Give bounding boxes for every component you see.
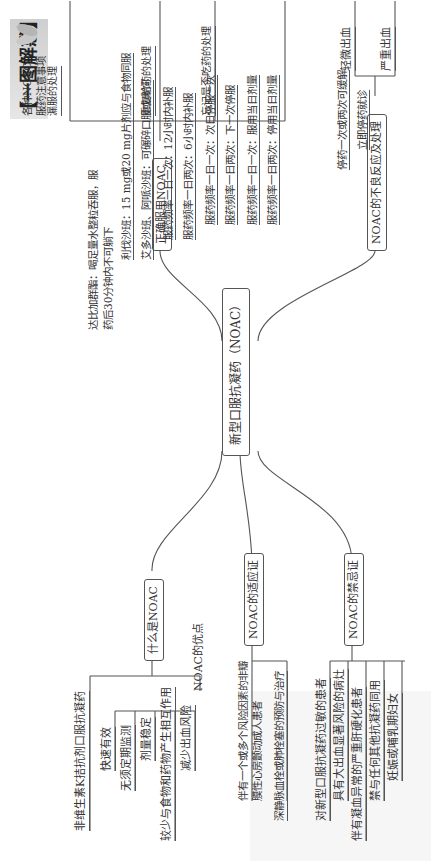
contraindication-item: 具有大出血显著风险的病灶: [333, 669, 349, 801]
adverse-action-severe: 立即停药就诊: [354, 90, 370, 150]
adverse-action-mild: 停药一次或两次可缓解: [334, 70, 350, 170]
contraindication-item: 伴有凝血异常的严重肝硬化患者: [351, 687, 367, 841]
definition-text: 非维生素K拮抗剂口服抗凝药: [74, 691, 90, 831]
advantage-item: 减少出血风险: [180, 705, 196, 771]
missed-once-daily: 服药频率一日一次：12小时内补服: [160, 87, 176, 240]
indication-item: 伴有一个或多个风险因素的非瓣膜性心房颤动成人患者: [236, 661, 264, 801]
indication-item: 深静脉血栓或肺栓塞的预防与治疗: [272, 671, 288, 821]
forgot-twice-daily: 服药频率一日两次：停用当日剂量: [264, 75, 280, 225]
contraindication-item: 禁与任何其他抗凝药同用: [369, 680, 385, 801]
advantage-item: 较少与食物和药物产生相互作用: [160, 687, 176, 841]
advantage-item: 无须定期监测: [120, 725, 136, 791]
root-node: 新型口服抗凝药（NOAC）: [222, 288, 250, 456]
contraindication-item: 对新型口服抗凝药过敏的患者: [315, 678, 331, 821]
node-indications: NOAC的适应证: [244, 553, 264, 646]
forgot-once-daily: 服药频率一日一次：服用当日剂量: [244, 75, 260, 225]
note-rivaroxaban: 利伐沙班：15 mg或20 mg片剂应与食物同服: [118, 53, 134, 260]
note-edoxaban-apixaban: 艾多沙班、阿哌沙班：可碾碎口服或鼻饲: [138, 80, 154, 260]
missed-twice-daily: 服药频率一日两次：6小时内补服: [180, 93, 196, 240]
double-once-daily: 服药频率一日一次：次日停服一次: [202, 75, 218, 225]
advantages-label: NOAC的优点: [192, 623, 206, 691]
node-what-is-noac: 什么是NOAC: [144, 579, 164, 661]
contraindication-item: 妊娠或哺乳期妇女: [387, 693, 403, 781]
note-dabigatran: 达比加群酯：喝足量水整粒吞服，服药后30分钟内不可躺下: [86, 170, 116, 330]
double-twice-daily: 服药频率一日两次：下一次停服: [222, 85, 238, 225]
advantage-item: 剂量稳定: [140, 717, 156, 761]
usage-details: 达比加群酯：喝足量水整粒吞服，服药后30分钟内不可躺下 利伐沙班：15 mg或2…: [0, 0, 431, 300]
advantage-item: 快速有效: [100, 727, 116, 771]
node-contraindications: NOAC的禁忌证: [344, 553, 364, 646]
